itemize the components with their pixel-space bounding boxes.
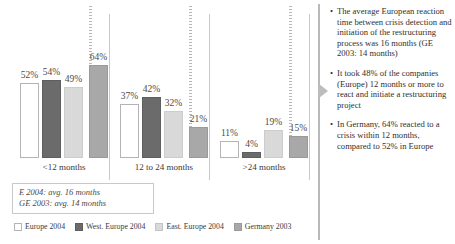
bar-group-gt24: 11% 4% 19% 15% (220, 6, 308, 158)
bar-slot[interactable]: 49% (64, 6, 83, 158)
bar-slot[interactable]: 54% (42, 6, 61, 158)
bar-value-label: 49% (65, 74, 82, 84)
bullet-item: • In Germany, 64% reacted to a crisis wi… (330, 119, 452, 151)
bar-germany-2003[interactable] (289, 136, 308, 158)
bar-value-label: 37% (121, 91, 138, 101)
arrow-right-icon (319, 84, 328, 98)
group-divider (309, 14, 310, 180)
bar-slot[interactable]: 11% (220, 6, 239, 158)
bar-slot[interactable]: 64% (89, 6, 108, 158)
note-line-europe: E 2004: avg. 16 months (19, 187, 147, 198)
bar-slot[interactable]: 15% (289, 6, 308, 158)
bar-east-europe-2004[interactable] (64, 87, 83, 158)
bullet-item: • It took 48% of the companies (Europe) … (330, 68, 452, 110)
bar-europe-2004[interactable] (20, 83, 39, 158)
bar-value-label: 32% (165, 98, 182, 108)
legend-label: Europe 2004 (25, 222, 65, 232)
category-label-lt12: <12 months (20, 161, 108, 173)
bar-value-label: 42% (143, 84, 160, 94)
bar-value-label: 4% (245, 139, 258, 149)
legend-swatch-icon (155, 223, 163, 231)
bar-value-label: 19% (265, 117, 282, 127)
bar-germany-2003[interactable] (89, 65, 108, 158)
bullet-text: It took 48% of the companies (Europe) 12… (337, 68, 452, 110)
bar-west-europe-2004[interactable] (42, 80, 61, 158)
bar-value-label: 21% (190, 114, 207, 124)
slide-canvas: 52% 54% 49% 64% (0, 0, 455, 244)
legend-label: East. Europe 2004 (166, 222, 223, 232)
note-line-germany: GE 2003: avg. 14 months (19, 198, 147, 209)
legend-item-germany-2003[interactable]: Germany 2003 (234, 222, 292, 232)
average-note-box: E 2004: avg. 16 months GE 2003: avg. 14 … (12, 183, 154, 214)
bar-slot[interactable]: 42% (142, 6, 161, 158)
legend-swatch-icon (14, 223, 22, 231)
bar-germany-2003[interactable] (189, 127, 208, 158)
legend-swatch-icon (75, 223, 83, 231)
bullet-text: The average European reaction time betwe… (337, 6, 452, 59)
bullet-dot-icon: • (330, 6, 333, 59)
bar-slot[interactable]: 4% (242, 6, 261, 158)
legend-item-europe-2004[interactable]: Europe 2004 (14, 222, 65, 232)
legend-label: West. Europe 2004 (86, 222, 145, 232)
bar-group-12to24: 37% 42% 32% 21% (120, 6, 208, 158)
legend-label: Germany 2003 (245, 222, 292, 232)
chart-legend: Europe 2004 West. Europe 2004 East. Euro… (14, 222, 297, 232)
category-label-gt24: >24 months (220, 161, 308, 173)
bar-europe-2004[interactable] (120, 104, 139, 158)
legend-item-west-europe-2004[interactable]: West. Europe 2004 (75, 222, 145, 232)
bar-west-europe-2004[interactable] (142, 97, 161, 158)
group-divider (209, 14, 210, 180)
legend-item-east-europe-2004[interactable]: East. Europe 2004 (155, 222, 223, 232)
bar-value-label: 15% (290, 123, 307, 133)
legend-swatch-icon (234, 223, 242, 231)
bar-value-label: 54% (43, 67, 60, 77)
bar-slot[interactable]: 37% (120, 6, 139, 158)
bar-value-label: 11% (221, 128, 238, 138)
bar-value-label: 64% (90, 52, 107, 62)
bar-east-europe-2004[interactable] (264, 130, 283, 158)
bar-group-lt12: 52% 54% 49% 64% (20, 6, 108, 158)
insights-panel: • The average European reaction time bet… (330, 6, 452, 238)
bullet-text: In Germany, 64% reacted to a crisis with… (337, 119, 452, 151)
bar-slot[interactable]: 19% (264, 6, 283, 158)
bar-europe-2004[interactable] (220, 141, 239, 158)
bar-east-europe-2004[interactable] (164, 111, 183, 158)
panel-divider (318, 4, 320, 240)
bar-chart: 52% 54% 49% 64% (0, 0, 315, 244)
bar-value-label: 52% (21, 70, 38, 80)
bullet-dot-icon: • (330, 68, 333, 110)
plot-area: 52% 54% 49% 64% (8, 6, 313, 158)
bullet-dot-icon: • (330, 119, 333, 151)
category-axis: <12 months 12 to 24 months >24 months (8, 158, 313, 178)
bar-slot[interactable]: 32% (164, 6, 183, 158)
bar-slot[interactable]: 21% (189, 6, 208, 158)
group-divider (109, 14, 110, 180)
bar-slot[interactable]: 52% (20, 6, 39, 158)
category-label-12to24: 12 to 24 months (120, 161, 208, 173)
bullet-item: • The average European reaction time bet… (330, 6, 452, 59)
